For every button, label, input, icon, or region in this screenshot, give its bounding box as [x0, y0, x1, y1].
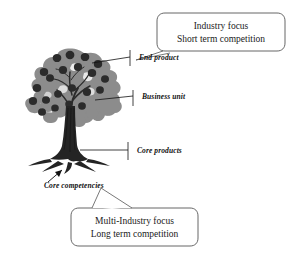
diagram-canvas: End product Business unit Core products …: [0, 0, 288, 256]
callout-multi-industry-focus-line1: Multi-Industry focus: [71, 215, 198, 228]
label-end-product: End product: [139, 53, 179, 62]
callout-industry-focus-line2: Short term competition: [157, 33, 285, 46]
callout-industry-focus-text: Industry focus Short term competition: [157, 20, 285, 45]
leader-core-products: [80, 142, 128, 160]
callout-industry-focus-line1: Industry focus: [157, 20, 285, 33]
core-competency-tree: [25, 49, 122, 174]
label-core-products: Core products: [137, 146, 182, 155]
callout-multi-industry-focus-text: Multi-Industry focus Long term competiti…: [71, 215, 198, 240]
label-core-competencies: Core competencies: [44, 181, 104, 190]
roots-core-competencies: [28, 159, 110, 174]
callout-multi-industry-focus-line2: Long term competition: [71, 228, 198, 241]
label-business-unit: Business unit: [142, 92, 185, 101]
